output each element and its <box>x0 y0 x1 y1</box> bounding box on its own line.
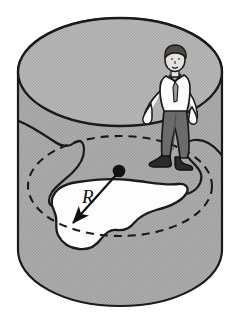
cylinder-diagram: R <box>0 0 238 331</box>
person-tie <box>173 82 178 102</box>
center-dot <box>113 165 126 178</box>
radius-label: R <box>81 186 94 207</box>
figure-container: R <box>0 0 238 331</box>
